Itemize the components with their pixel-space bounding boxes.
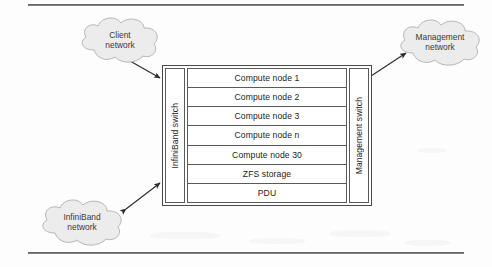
management-network-label: Management network [416,32,465,53]
infiniband-switch-label: InfiniBand switch [170,103,180,168]
infiniband-network-label: InfiniBand network [63,212,100,233]
node-stack: Compute node 1 Compute node 2 Compute no… [187,68,347,203]
rack-unit-pdu: PDU [187,183,347,203]
rack-unit-compute-node-n: Compute node n [187,125,347,144]
rack-unit-compute-node-3: Compute node 3 [187,106,347,125]
rack-unit-compute-node-2: Compute node 2 [187,87,347,106]
rack-unit-compute-node-1: Compute node 1 [187,68,347,87]
client-network-cloud: Client network [74,14,166,66]
client-network-label: Client network [105,30,134,51]
figure-page: Client network Management network Infini… [0,0,492,267]
infiniband-network-cloud: InfiniBand network [34,196,130,248]
rack-unit-compute-node-30: Compute node 30 [187,145,347,164]
arrow-ib-network-to-ib-switch [126,183,160,209]
management-switch: Management switch [349,68,369,203]
rack-unit-zfs-storage: ZFS storage [187,164,347,183]
infiniband-switch: InfiniBand switch [165,68,185,203]
management-network-cloud: Management network [392,16,488,68]
management-switch-label: Management switch [354,97,364,174]
cluster-rack: InfiniBand switch Compute node 1 Compute… [162,65,372,206]
